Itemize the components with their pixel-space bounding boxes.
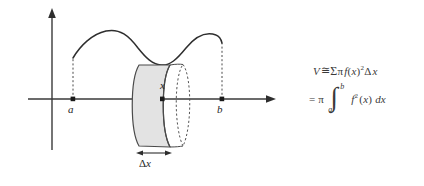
disk-top-connector — [170, 64, 183, 65]
delta-x-measure-arrow — [136, 150, 172, 155]
formula1-V: V — [313, 65, 320, 77]
formula-volume-integral: = π∫ba f2 (x) dx — [309, 92, 420, 107]
formula2-exponent: 2 — [355, 92, 359, 100]
formula1-pi: π — [337, 65, 343, 77]
label-delta-x: Δx — [139, 158, 151, 169]
label-a: a — [68, 104, 74, 115]
formula-block: V ≅Σπ f(x)2Δ x = π∫ba f2 (x) dx — [305, 64, 420, 107]
formula1-dx-variable: x — [373, 65, 378, 77]
integral-lower-limit: a — [328, 105, 332, 114]
formula-volume-sum: V ≅Σπ f(x)2Δ x — [313, 64, 420, 79]
label-x: x — [160, 80, 165, 91]
function-curve — [73, 30, 222, 65]
formula2-equals: = — [309, 93, 315, 105]
integral-upper-limit: b — [340, 82, 344, 91]
delta-x-variable: x — [146, 157, 151, 169]
disk-slab-body — [132, 65, 170, 147]
figure-root: a b x Δx V ≅Σπ f(x)2Δ x = π∫ba f2 (x) dx — [0, 0, 424, 186]
point-b-marker — [220, 97, 225, 102]
point-x-marker — [160, 97, 165, 102]
disk-bottom-connector — [170, 146, 183, 147]
point-a-marker — [71, 97, 76, 102]
label-b: b — [217, 104, 223, 115]
disk-back-ellipse — [176, 65, 190, 147]
formula1-approx-sign: ≅ — [321, 64, 330, 76]
formula2-differential: dx — [375, 93, 386, 105]
integral-group: ∫ba — [324, 93, 350, 107]
y-axis — [48, 8, 56, 150]
formula2-close-paren: ) — [368, 93, 372, 105]
formula1-delta: Δ — [364, 65, 371, 77]
